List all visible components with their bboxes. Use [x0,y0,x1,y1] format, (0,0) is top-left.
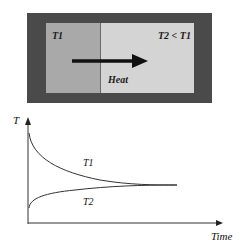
x-axis-label: Time [211,230,232,242]
y-axis-label: T [13,114,19,126]
t2-curve-label: T2 [83,196,94,207]
heat-arrow-icon [72,54,148,68]
t2-curve [29,185,177,208]
diagram-graphics [0,0,242,250]
t1-curve-label: T1 [83,157,94,168]
graph-axes [25,117,223,226]
t1-curve [29,133,177,185]
